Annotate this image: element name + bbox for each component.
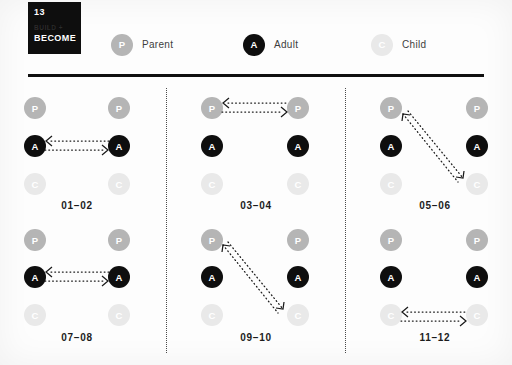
panel-label: 11–12 — [385, 332, 485, 343]
child-node: C — [380, 173, 402, 195]
child-node: C — [24, 304, 46, 326]
arrow-adult-adult-2 — [45, 267, 109, 286]
parent-node: P — [380, 97, 402, 119]
child-node: C — [108, 304, 130, 326]
panel-divider-1 — [166, 88, 167, 353]
parent-node: P — [24, 229, 46, 251]
panel-label: 09–10 — [206, 332, 306, 343]
adult-node: A — [287, 135, 309, 157]
child-node: C — [466, 173, 488, 195]
panel-label: 03–04 — [206, 200, 306, 211]
parent-node: P — [466, 229, 488, 251]
legend-label-parent: Parent — [142, 39, 173, 50]
adult-node: A — [201, 135, 223, 157]
legend-item-child: C Child — [371, 33, 426, 56]
parent-node: P — [24, 97, 46, 119]
header-divider — [28, 74, 484, 77]
parent-node: P — [108, 229, 130, 251]
parent-node: P — [201, 229, 223, 251]
legend-item-adult: A Adult — [243, 33, 298, 56]
adult-node: A — [24, 266, 46, 288]
child-circle-icon: C — [371, 34, 393, 56]
adult-node: A — [287, 266, 309, 288]
parent-node: P — [108, 97, 130, 119]
child-node: C — [287, 173, 309, 195]
legend-label-adult: Adult — [274, 39, 298, 50]
adult-node: A — [380, 266, 402, 288]
card-series: BUILD + — [34, 24, 81, 31]
card-number: 13 — [34, 7, 81, 18]
adult-node: A — [108, 266, 130, 288]
parent-node: P — [466, 97, 488, 119]
card-page: 13 BUILD + BECOME P Parent A Adult C Chi… — [0, 0, 512, 365]
child-node: C — [108, 173, 130, 195]
parent-circle-icon: P — [111, 34, 133, 56]
card-tag: 13 BUILD + BECOME — [28, 2, 81, 54]
legend-item-parent: P Parent — [111, 33, 173, 56]
parent-node: P — [380, 229, 402, 251]
panel-label: 07–08 — [27, 332, 127, 343]
panel-label: 05–06 — [385, 200, 485, 211]
card-title: BECOME — [34, 33, 81, 44]
parent-node: P — [201, 97, 223, 119]
child-node: C — [201, 173, 223, 195]
child-node: C — [24, 173, 46, 195]
adult-node: A — [201, 266, 223, 288]
adult-circle-icon: A — [243, 34, 265, 56]
arrow-parent-parent — [222, 98, 288, 117]
adult-node: A — [466, 135, 488, 157]
arrow-parent-child-diagonal-2 — [222, 242, 284, 313]
child-node: C — [466, 304, 488, 326]
panel-label: 01–02 — [27, 200, 127, 211]
child-node: C — [287, 304, 309, 326]
child-node: C — [201, 304, 223, 326]
parent-node: P — [287, 229, 309, 251]
adult-node: A — [24, 135, 46, 157]
arrow-adult-adult-1 — [45, 136, 109, 155]
parent-node: P — [287, 97, 309, 119]
panel-divider-2 — [345, 88, 346, 353]
arrow-child-child — [401, 307, 467, 326]
adult-node: A — [380, 135, 402, 157]
adult-node: A — [466, 266, 488, 288]
legend-label-child: Child — [402, 39, 426, 50]
child-node: C — [380, 304, 402, 326]
arrow-parent-child-diagonal-1 — [402, 111, 464, 182]
adult-node: A — [108, 135, 130, 157]
